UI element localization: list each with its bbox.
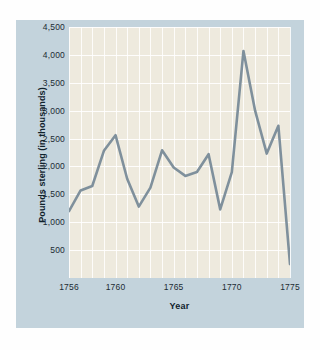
y-tick-label: 3,000 [43,106,65,116]
line-series [69,27,290,278]
vertical-gridline [290,27,291,278]
y-tick-label: 1,500 [43,189,65,199]
y-tick-label: 2,500 [43,134,65,144]
y-tick-label: 3,500 [43,78,65,88]
x-tick-label: 1770 [222,282,242,292]
x-tick-label: 1760 [106,282,126,292]
plot-area [69,27,290,278]
x-tick-label: 1765 [164,282,184,292]
x-axis-title: Year [69,301,290,311]
chart-figure: Pounds sterling (in thousands) 4,5004,00… [16,20,304,328]
y-tick-label: 4,000 [43,50,65,60]
data-line [69,51,290,264]
y-tick-label: 1,000 [43,217,65,227]
y-axis-tick-labels: 4,5004,0003,5003,0002,5002,0001,5001,000… [16,27,65,278]
y-tick-label: 500 [50,245,65,255]
y-tick-label: 4,500 [43,22,65,32]
x-tick-label: 1775 [280,282,300,292]
y-tick-label: 2,000 [43,161,65,171]
x-tick-label: 1756 [59,282,79,292]
